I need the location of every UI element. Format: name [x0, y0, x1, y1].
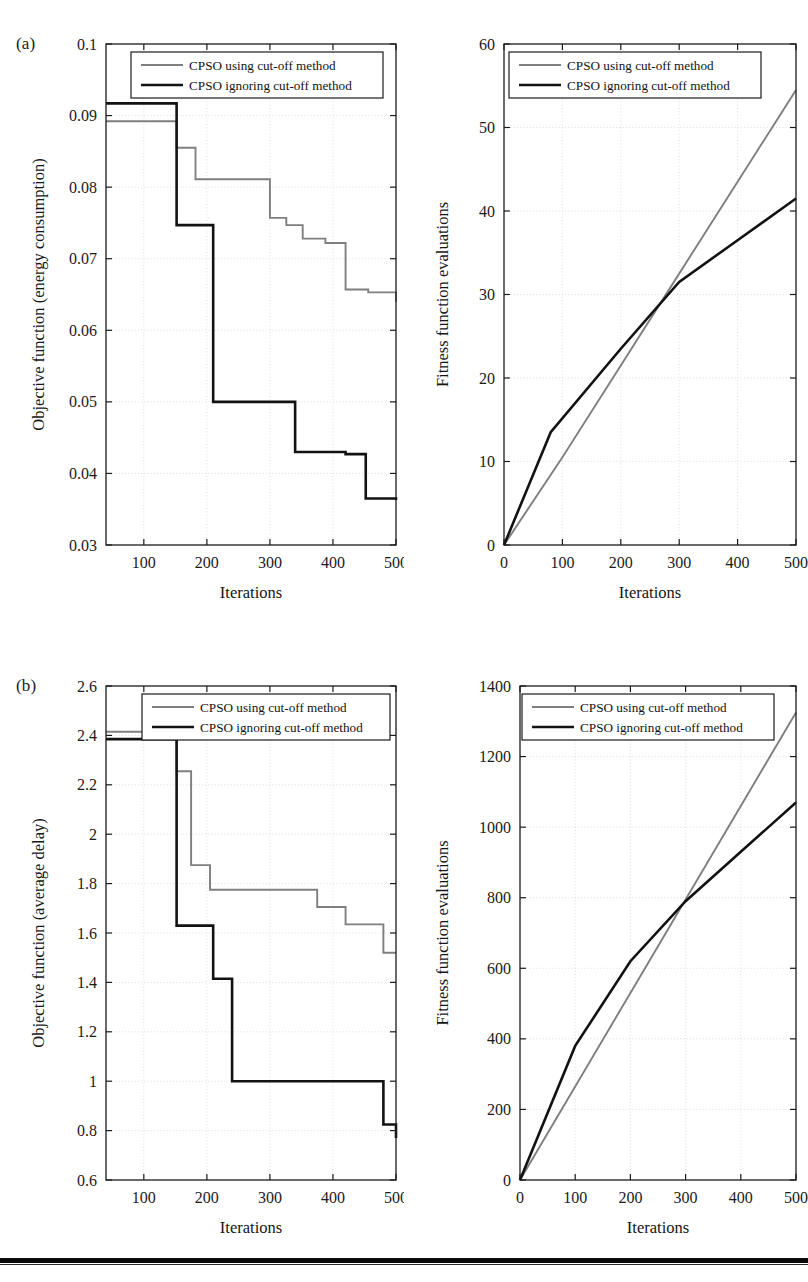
- xtick-label: 100: [132, 1189, 156, 1206]
- chart-b-right: 0200400600800100012001400010020030040050…: [404, 642, 808, 1257]
- legend: CPSO using cut-off methodCPSO ignoring c…: [509, 52, 761, 98]
- x-axis-title: Iterations: [619, 583, 681, 602]
- xtick-label: 500: [784, 1189, 808, 1206]
- ytick-label: 0.6: [77, 1172, 97, 1189]
- ytick-label: 0.8: [77, 1122, 97, 1139]
- ytick-label: 60: [479, 36, 495, 53]
- ytick-label: 1000: [479, 819, 511, 836]
- tick-labels: 01020304050600100200300400500: [479, 36, 808, 572]
- ytick-label: 800: [487, 889, 511, 906]
- legend: CPSO using cut-off methodCPSO ignoring c…: [142, 694, 390, 740]
- y-axis-title: Fitness function evaluations: [433, 202, 452, 387]
- ytick-label: 2: [89, 826, 97, 843]
- ticks: [504, 44, 796, 545]
- y-axis-title: Objective function (average delay): [29, 818, 48, 1048]
- series-line-1: [504, 90, 796, 545]
- ticks: [106, 44, 396, 545]
- xtick-label: 100: [132, 554, 156, 571]
- y-axis-title: Fitness function evaluations: [433, 840, 452, 1025]
- series-line-1: [520, 712, 796, 1180]
- legend-label-2: CPSO ignoring cut-off method: [567, 78, 730, 93]
- ytick-label: 1.6: [77, 925, 97, 942]
- ytick-label: 400: [487, 1030, 511, 1047]
- xtick-label: 0: [500, 554, 508, 571]
- series-line-1: [106, 121, 396, 301]
- xtick-label: 400: [729, 1189, 753, 1206]
- x-axis-title: Iterations: [220, 1218, 282, 1237]
- ytick-label: 10: [479, 453, 495, 470]
- x-axis-title: Iterations: [627, 1218, 689, 1237]
- ytick-label: 1.4: [77, 974, 97, 991]
- series-group: [504, 90, 796, 545]
- legend-label-1: CPSO using cut-off method: [567, 58, 714, 73]
- bottom-divider-thick: [0, 1258, 808, 1263]
- chart-a-left: 0.030.040.050.060.070.080.090.1100200300…: [0, 0, 404, 640]
- xtick-label: 300: [258, 1189, 282, 1206]
- series-group: [106, 103, 396, 500]
- legend-label-2: CPSO ignoring cut-off method: [580, 720, 743, 735]
- legend-label-1: CPSO using cut-off method: [200, 700, 347, 715]
- chart-b-right-svg: 0200400600800100012001400010020030040050…: [404, 642, 808, 1257]
- tick-labels: 0.60.811.21.41.61.822.22.42.610020030040…: [77, 678, 404, 1207]
- xtick-label: 300: [674, 1189, 698, 1206]
- legend: CPSO using cut-off methodCPSO ignoring c…: [522, 694, 774, 740]
- ytick-label: 0.06: [69, 322, 97, 339]
- ytick-label: 20: [479, 370, 495, 387]
- xtick-label: 200: [195, 554, 219, 571]
- xtick-label: 300: [258, 554, 282, 571]
- ytick-label: 1.8: [77, 875, 97, 892]
- xtick-label: 400: [321, 554, 345, 571]
- ytick-label: 0.07: [69, 250, 97, 267]
- y-axis-title: Objective function (energy consumption): [29, 158, 48, 430]
- xtick-label: 400: [726, 554, 750, 571]
- chart-a-right: 01020304050600100200300400500IterationsF…: [404, 0, 808, 640]
- ytick-label: 0.09: [69, 107, 97, 124]
- series-line-2: [520, 802, 796, 1180]
- ytick-label: 1.2: [77, 1023, 97, 1040]
- xtick-label: 500: [784, 554, 808, 571]
- legend-label-2: CPSO ignoring cut-off method: [200, 720, 363, 735]
- ytick-label: 0.04: [69, 465, 97, 482]
- ytick-label: 0: [487, 537, 495, 554]
- ytick-label: 600: [487, 960, 511, 977]
- gridlines: [106, 44, 396, 545]
- legend: CPSO using cut-off methodCPSO ignoring c…: [131, 52, 383, 98]
- legend-label-1: CPSO using cut-off method: [189, 58, 336, 73]
- plot-border: [106, 44, 396, 545]
- xtick-label: 200: [609, 554, 633, 571]
- ytick-label: 2.4: [77, 727, 97, 744]
- series-line-2: [106, 103, 396, 500]
- xtick-label: 300: [667, 554, 691, 571]
- axes-frame: [504, 44, 796, 545]
- ytick-label: 0.08: [69, 179, 97, 196]
- bottom-divider-thin: [0, 1264, 808, 1265]
- legend-label-1: CPSO using cut-off method: [580, 700, 727, 715]
- ytick-label: 1400: [479, 678, 511, 695]
- ytick-label: 2.6: [77, 678, 97, 695]
- chart-b-left-svg: 0.60.811.21.41.61.822.22.42.610020030040…: [0, 642, 404, 1257]
- chart-a-right-svg: 01020304050600100200300400500IterationsF…: [404, 0, 808, 640]
- x-axis-title: Iterations: [220, 583, 282, 602]
- ytick-label: 40: [479, 203, 495, 220]
- ytick-label: 0.1: [77, 36, 97, 53]
- chart-b-left: 0.60.811.21.41.61.822.22.42.610020030040…: [0, 642, 404, 1257]
- figure-root: (a) (b) 0.030.040.050.060.070.080.090.11…: [0, 0, 808, 1282]
- legend-label-2: CPSO ignoring cut-off method: [189, 78, 352, 93]
- gridlines: [504, 44, 796, 545]
- series-group: [520, 712, 796, 1180]
- plot-border: [504, 44, 796, 545]
- series-line-1: [106, 732, 396, 953]
- xtick-label: 400: [321, 1189, 345, 1206]
- xtick-label: 100: [563, 1189, 587, 1206]
- series-line-2: [106, 739, 396, 1138]
- series-group: [106, 732, 396, 1138]
- ytick-label: 2.2: [77, 776, 97, 793]
- ytick-label: 1: [89, 1073, 97, 1090]
- xtick-label: 200: [618, 1189, 642, 1206]
- ytick-label: 200: [487, 1101, 511, 1118]
- xtick-label: 200: [195, 1189, 219, 1206]
- xtick-label: 500: [384, 1189, 404, 1206]
- chart-a-left-svg: 0.030.040.050.060.070.080.090.1100200300…: [0, 0, 404, 640]
- ytick-label: 0.05: [69, 393, 97, 410]
- ytick-label: 0.03: [69, 537, 97, 554]
